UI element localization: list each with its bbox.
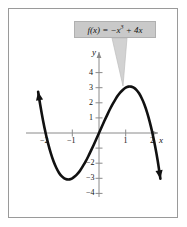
y-tick-label--2: −2 bbox=[86, 159, 95, 167]
x-tick-label-1: 1 bbox=[124, 137, 128, 145]
y-tick-label--3: −3 bbox=[86, 174, 95, 182]
callout-leader bbox=[112, 38, 127, 86]
x-tick-label--2: −2 bbox=[40, 137, 49, 145]
function-label-box: f(x) = −x3 + 4x bbox=[74, 21, 156, 38]
y-tick-label-1: 1 bbox=[89, 114, 93, 122]
y-axis-label: y bbox=[92, 48, 96, 57]
y-tick-label-2: 2 bbox=[89, 99, 93, 107]
y-tick-label-4: 4 bbox=[89, 69, 93, 77]
x-tick-label--1: −1 bbox=[67, 137, 76, 145]
y-axis-arrow bbox=[97, 52, 102, 58]
y-tick-label--4: −4 bbox=[86, 189, 95, 197]
function-label-text: f(x) = −x3 + 4x bbox=[87, 24, 142, 35]
y-tick-label-3: 3 bbox=[89, 84, 93, 92]
figure-container: −2 −1 1 2 4 3 2 1 −2 −3 −4 y x f(x) = −x… bbox=[0, 0, 187, 227]
x-axis-label: x bbox=[159, 136, 163, 145]
x-tick-label-2: 2 bbox=[150, 137, 154, 145]
